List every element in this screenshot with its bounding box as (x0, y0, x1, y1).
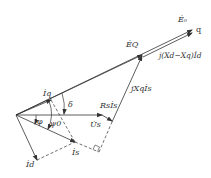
rs-is-phasor (102, 115, 112, 121)
delta-arc (62, 93, 64, 114)
phasor-diagram: Ė₀ q ĖQ j(Xd−Xq)İd jXqİs İq δ Rsİs φ ψ0 … (0, 0, 211, 178)
iq-phasor (16, 100, 51, 115)
label-us: U̇s (90, 120, 101, 129)
label-is: İs (71, 148, 79, 157)
label-phi: φ (37, 117, 43, 126)
is-phasor (16, 115, 75, 142)
label-id: İd (25, 160, 34, 169)
dashed-id-is (37, 142, 75, 160)
label-q-axis: q (196, 25, 201, 34)
label-eq: ĖQ (125, 40, 139, 49)
label-jxd-xq-id: j(Xd−Xq)İd (157, 51, 202, 60)
eq-phasor (16, 55, 142, 115)
id-phasor (16, 115, 37, 160)
phi-arc (35, 115, 36, 124)
label-delta: δ (68, 100, 73, 109)
label-psi0: ψ0 (50, 119, 61, 128)
label-e0: Ė₀ (177, 15, 188, 24)
label-iq: İq (42, 89, 51, 98)
label-rs-is: Rsİs (99, 101, 117, 110)
dashed-corner-rs (99, 122, 112, 152)
label-jxq-is: jXqİs (129, 84, 152, 93)
